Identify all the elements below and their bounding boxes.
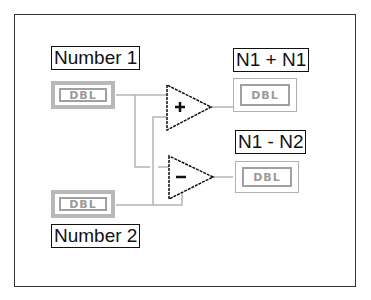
number-2-terminal[interactable]: DBL [51,190,115,218]
difference-indicator-label: N1 - N2 [235,130,306,154]
subtract-operator-icon [169,156,213,199]
sum-indicator-label: N1 + N1 [233,48,309,72]
wires [0,0,371,300]
number-2-label: Number 2 [51,224,140,248]
dbl-type-label: DBL [59,88,107,102]
dbl-type-label: DBL [59,197,107,211]
sum-indicator-terminal[interactable]: DBL [233,78,297,112]
difference-indicator-terminal[interactable]: DBL [235,161,299,193]
number-1-terminal[interactable]: DBL [51,81,115,109]
number-1-label: Number 1 [51,46,140,70]
wire-number-1 [116,95,170,167]
dbl-type-label: DBL [242,167,292,187]
add-operator-icon [167,85,211,130]
dbl-type-label: DBL [240,84,290,106]
